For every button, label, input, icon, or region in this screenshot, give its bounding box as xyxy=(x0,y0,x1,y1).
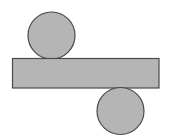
cylinder-net-diagram xyxy=(0,0,170,140)
lateral-surface-rectangle xyxy=(13,59,160,89)
bottom-circle-base xyxy=(97,88,144,135)
top-circle-base xyxy=(28,12,75,59)
